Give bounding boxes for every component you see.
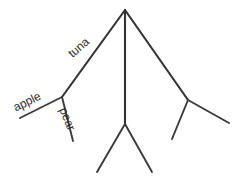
diagram-canvas: tuna apple pear xyxy=(0,0,235,179)
edge-center-node-to-leaf-left xyxy=(97,124,125,172)
edge-right-node-to-leaf-right xyxy=(188,100,229,123)
edge-root-to-right-node xyxy=(125,10,188,100)
edge-center-node-to-leaf-right xyxy=(125,124,152,172)
edge-right-node-to-leaf-left xyxy=(172,100,188,139)
